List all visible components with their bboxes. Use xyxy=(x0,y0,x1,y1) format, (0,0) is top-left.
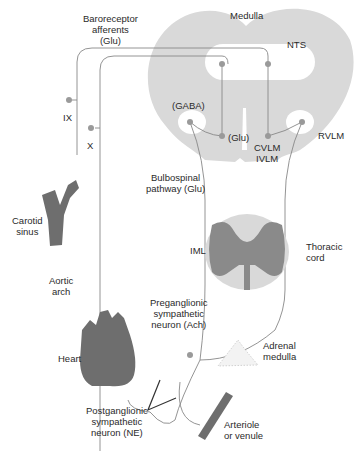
label-bulbospinal: Bulbospinal pathway (Glu) xyxy=(146,172,205,194)
label-line: Baroreceptor xyxy=(83,13,138,24)
label-line: Postganglionic xyxy=(86,405,148,416)
adrenal-shape xyxy=(218,340,258,366)
label-line: pathway (Glu) xyxy=(146,183,205,194)
label-nts: NTS xyxy=(287,39,306,50)
label-line: medulla xyxy=(263,351,296,362)
label-heart: Heart xyxy=(58,353,81,364)
label-line: arch xyxy=(49,286,73,297)
label-line: Adrenal xyxy=(263,340,296,351)
label-line: neuron (Ach) xyxy=(150,319,208,330)
label-arteriole: Arteriole or venule xyxy=(224,419,263,441)
label-glu: (Glu) xyxy=(228,132,249,143)
label-gaba: (GABA) xyxy=(172,100,205,111)
label-baroreceptor: Baroreceptor afferents (Glu) xyxy=(83,13,138,46)
label-rvlm: RVLM xyxy=(318,130,344,141)
label-postganglionic: Postganglionic sympathetic neuron (NE) xyxy=(86,405,148,438)
label-line: Carotid xyxy=(12,215,43,226)
label-line: Thoracic xyxy=(306,241,342,252)
label-line: cord xyxy=(306,252,342,263)
label-line: sympathetic xyxy=(150,308,208,319)
label-line: sympathetic xyxy=(86,416,148,427)
label-ivlm: IVLM xyxy=(256,153,278,164)
label-line: Arteriole xyxy=(224,419,263,430)
label-thoracic: Thoracic cord xyxy=(306,241,342,263)
label-line: Bulbospinal xyxy=(146,172,205,183)
label-line: neuron (NE) xyxy=(86,427,148,438)
label-aortic: Aortic arch xyxy=(49,275,73,297)
label-x: X xyxy=(87,140,93,151)
label-iml: IML xyxy=(190,245,206,256)
heart-shape xyxy=(80,310,135,386)
label-carotid: Carotid sinus xyxy=(12,215,43,237)
label-line: (Glu) xyxy=(83,35,138,46)
label-line: Aortic xyxy=(49,275,73,286)
label-line: Preganglionic xyxy=(150,297,208,308)
diagram-canvas xyxy=(0,0,357,451)
label-medulla: Medulla xyxy=(230,10,263,21)
label-ix: IX xyxy=(63,112,72,123)
label-line: or venule xyxy=(224,430,263,441)
label-line: afferents xyxy=(83,24,138,35)
label-cvlm: CVLM xyxy=(254,142,280,153)
label-line: sinus xyxy=(12,226,43,237)
label-preganglionic: Preganglionic sympathetic neuron (Ach) xyxy=(150,297,208,330)
label-adrenal: Adrenal medulla xyxy=(263,340,296,362)
carotid-sinus-shape xyxy=(42,180,79,246)
